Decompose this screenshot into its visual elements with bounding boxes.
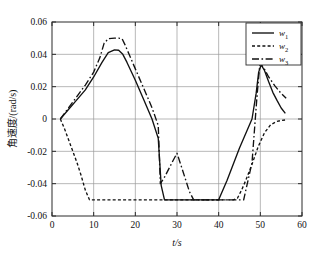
x-axis-title: t/s <box>172 237 182 248</box>
y-tick-label: 0.04 <box>30 50 47 60</box>
y-tick-label: 0 <box>42 114 47 124</box>
y-axis-title: 角速度/(rad/s) <box>6 90 19 149</box>
y-tick-label: -0.06 <box>27 211 47 221</box>
x-tick-label: 10 <box>89 220 99 230</box>
y-tick-label: 0.02 <box>30 82 47 92</box>
y-tick-label: -0.02 <box>27 147 47 157</box>
angular-velocity-line-chart: 0102030405060 -0.06-0.04-0.0200.020.040.… <box>0 0 320 263</box>
x-tick-label: 50 <box>256 220 266 230</box>
y-tick-label: -0.04 <box>27 179 47 189</box>
x-tick-label: 60 <box>297 220 307 230</box>
x-tick-label: 40 <box>214 220 224 230</box>
chart-figure: 0102030405060 -0.06-0.04-0.0200.020.040.… <box>0 0 320 263</box>
x-tick-label: 0 <box>50 220 55 230</box>
chart-legend: w1w2w3 <box>246 23 301 66</box>
x-tick-label: 20 <box>131 220 141 230</box>
y-tick-label: 0.06 <box>30 17 47 27</box>
x-tick-label: 30 <box>172 220 182 230</box>
